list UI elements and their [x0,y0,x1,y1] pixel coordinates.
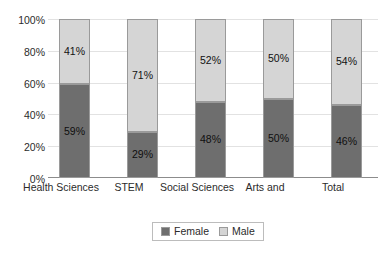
bar-group-social-sciences[interactable]: 52% 48% [195,19,226,178]
bar-segment-male-stem[interactable]: 71% [127,19,158,132]
bar-segment-female-health-sciences[interactable]: 59% [59,84,90,178]
y-axis-tick-20: 20% [1,142,45,152]
y-axis-tick-40: 40% [1,110,45,120]
plot-area: 41% 59% 71% 29% 52% [48,19,378,178]
x-axis-label-line1: Total [281,181,385,194]
bar-group-health-sciences[interactable]: 41% 59% [59,19,90,178]
legend-item-male[interactable]: Male [219,226,255,237]
bar-segment-female-arts-and-humanities[interactable]: 50% [263,99,294,179]
stacked-bar-chart: 100% 80% 60% 40% 20% 0% 41% 59% [0,0,392,253]
bar-value-label: 50% [268,133,289,144]
bar-value-label: 41% [64,46,85,57]
bar-value-label: 71% [132,70,153,81]
bar-value-label: 52% [200,55,221,66]
legend: Female Male [152,222,264,241]
bar-segment-male-arts-and-humanities[interactable]: 50% [263,19,294,99]
bar-segment-male-social-sciences[interactable]: 52% [195,19,226,102]
legend-item-female[interactable]: Female [161,226,209,237]
bar-group-stem[interactable]: 71% 29% [127,19,158,178]
bar-segment-male-health-sciences[interactable]: 41% [59,19,90,84]
y-axis-tick-100: 100% [1,15,45,25]
legend-label-female: Female [174,226,209,237]
legend-swatch-male-icon [219,227,228,236]
bar-segment-male-total[interactable]: 54% [331,19,362,105]
bar-value-label: 46% [336,136,357,147]
bar-value-label: 29% [132,149,153,160]
y-axis-tick-80: 80% [1,47,45,57]
bar-value-label: 50% [268,53,289,64]
bar-segment-female-social-sciences[interactable]: 48% [195,102,226,178]
legend-swatch-female-icon [161,227,170,236]
bar-segment-female-total[interactable]: 46% [331,105,362,178]
bar-group-arts-and-humanities[interactable]: 50% 50% [263,19,294,178]
bar-value-label: 54% [336,56,357,67]
legend-label-male: Male [232,226,255,237]
bar-value-label: 59% [64,126,85,137]
y-axis-tick-60: 60% [1,79,45,89]
bar-value-label: 48% [200,134,221,145]
bar-segment-female-stem[interactable]: 29% [127,132,158,178]
bar-group-total[interactable]: 54% 46% [331,19,362,178]
x-axis-label-total: Total [281,181,385,194]
bars-layer: 41% 59% 71% 29% 52% [48,19,378,178]
